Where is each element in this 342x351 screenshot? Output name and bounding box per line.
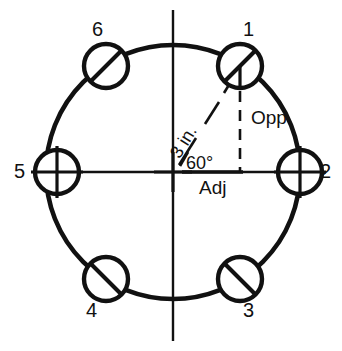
hole-2 bbox=[274, 146, 326, 198]
hole-label-2: 2 bbox=[320, 161, 331, 181]
diagram-canvas bbox=[0, 0, 342, 351]
bolt-circle-diagram: 1 2 3 4 5 6 3 in. 60° Opp Adj bbox=[0, 0, 342, 351]
hole-1 bbox=[218, 44, 262, 88]
hole-label-5: 5 bbox=[14, 161, 25, 181]
hole-5 bbox=[31, 146, 83, 198]
adjacent-side-label: Adj bbox=[199, 178, 226, 197]
hole-label-4: 4 bbox=[86, 300, 97, 320]
hole-label-3: 3 bbox=[243, 300, 254, 320]
opposite-side-label: Opp bbox=[251, 108, 287, 127]
hole-label-1: 1 bbox=[243, 19, 254, 39]
hole-4 bbox=[84, 257, 128, 301]
angle-label: 60° bbox=[186, 154, 213, 172]
hole-3 bbox=[218, 257, 262, 301]
hole-label-6: 6 bbox=[92, 19, 103, 39]
hole-6 bbox=[84, 44, 128, 88]
